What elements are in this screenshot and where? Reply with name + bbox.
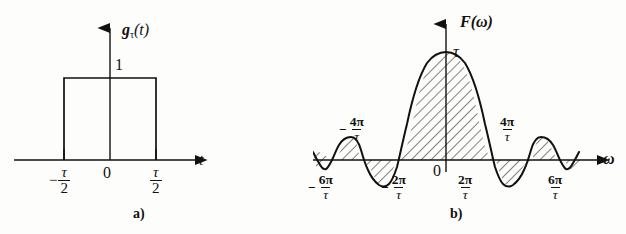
panel-b-tick-plus4-num: 4π	[498, 115, 516, 129]
panel-b-tick-minus4-den: τ	[352, 129, 361, 144]
panel-b-tick-plus4-den: τ	[503, 129, 512, 144]
panel-a-x-axis-label: t	[199, 152, 203, 168]
panel-b-y-axis-label-text: F(ω)	[460, 13, 493, 30]
panel-a-y-axis-label-g: g	[122, 21, 130, 38]
panel-a-y-axis-label-arg: (t)	[134, 21, 149, 38]
panel-b-tick-label-minus-4pi-over-tau: −4πτ	[339, 115, 366, 144]
panel-b-tick-plus2-den: τ	[461, 187, 470, 202]
panel-b-y-axis-label: F(ω)	[460, 14, 493, 30]
panel-b-tick-plus6-den: τ	[551, 187, 560, 202]
panel-b-tick-plus6-num: 6π	[546, 173, 564, 187]
panel-b-tick-minus2-num: 2π	[390, 173, 408, 187]
panel-b-caption: b)	[450, 206, 462, 222]
panel-b-tick-minus6-sign: −	[308, 181, 317, 195]
panel-b-tick-minus6-den: τ	[321, 187, 330, 202]
panel-a-plot	[0, 0, 313, 234]
panel-a-origin-label: 0	[103, 165, 111, 181]
panel-a-tick-label-right-den: 2	[150, 180, 162, 196]
panel-b-tick-label-6pi-over-tau: 6πτ	[545, 173, 564, 202]
panel-a-rectangular-pulse: gτ(t) 1 t 0 −τ2 τ2 a)	[0, 0, 313, 234]
panel-b-tick-minus2-sign: −	[381, 181, 390, 195]
panel-b-fourier-transform: F(ω) τ ω 0 −6πτ −4πτ −2πτ 2πτ 4πτ 6πτ	[313, 0, 626, 234]
panel-b-tick-minus2-den: τ	[394, 187, 403, 202]
panel-a-y-axis-label-sub: τ	[130, 29, 134, 40]
figure-container: gτ(t) 1 t 0 −τ2 τ2 a)	[0, 0, 626, 234]
panel-b-tick-label-minus-6pi-over-tau: −6πτ	[308, 173, 335, 202]
panel-a-y-axis-label: gτ(t)	[122, 22, 149, 38]
panel-a-tick-label-right: τ2	[149, 165, 162, 197]
panel-b-tick-minus4-num: 4π	[348, 115, 366, 129]
panel-b-tick-minus4-sign: −	[339, 123, 348, 137]
panel-b-tick-plus2-num: 2π	[456, 173, 474, 187]
panel-a-tick-label-left-num: τ	[60, 165, 69, 180]
panel-a-caption: a)	[133, 206, 145, 222]
panel-b-tick-label-2pi-over-tau: 2πτ	[455, 173, 474, 202]
panel-a-tick-label-left-sign: −	[49, 173, 58, 188]
panel-a-amplitude-label: 1	[115, 57, 123, 73]
panel-a-tick-label-left: −τ2	[49, 165, 70, 197]
panel-b-tick-label-4pi-over-tau: 4πτ	[497, 115, 516, 144]
panel-a-tick-label-left-den: 2	[58, 180, 70, 196]
panel-b-tick-label-minus-2pi-over-tau: −2πτ	[381, 173, 408, 202]
panel-b-origin-label: 0	[433, 163, 441, 179]
panel-b-peak-label: τ	[453, 44, 459, 60]
panel-b-tick-minus6-num: 6π	[317, 173, 335, 187]
panel-a-tick-label-right-num: τ	[151, 165, 160, 180]
panel-b-x-axis-label: ω	[603, 151, 615, 167]
